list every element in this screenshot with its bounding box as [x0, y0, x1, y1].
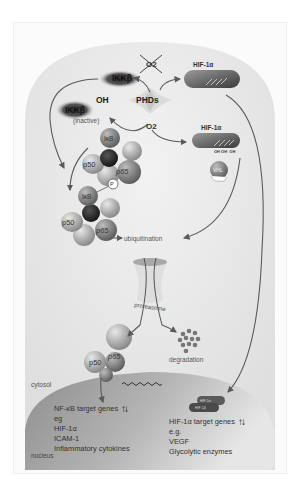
hif-gene-item: Glycolytic enzymes [169, 447, 244, 457]
ikk-inactive-note: (inactive) [73, 116, 99, 125]
nfkb-target-genes: NF-κB target genes↑↓ eg HIF-1α ICAM-1 In… [54, 404, 130, 454]
oh-groups-label: OH OH OH [214, 149, 235, 154]
up-down-arrows-icon: ↑↓ [238, 417, 244, 427]
hif-gene-item: e.g. [169, 427, 244, 437]
nfkb-genes-title: NF-κB target genes [54, 404, 118, 413]
hif-gene-item: VEGF [169, 437, 244, 447]
ikk-active-label: IKKβ [112, 74, 132, 83]
o2-crossed-label: O2 [146, 60, 157, 69]
hif-dimer-beta-label: HIF-1β [195, 404, 206, 413]
ikk-oh-label: OH [96, 96, 109, 105]
nfkb-gene-item: ICAM-1 [54, 434, 130, 444]
cytosol-label: cytosol [31, 380, 51, 389]
vhl-label: VHL [213, 166, 223, 175]
hif-hydroxylated-label: HIF-1α [201, 123, 221, 132]
p65-top-label: p65 [116, 167, 129, 176]
hif-target-genes: HIF-1α target genes↑↓ e.g. VEGF Glycolyt… [169, 417, 244, 457]
nfkb-gene-item: Inflammatory cytokines [54, 444, 130, 454]
o2-label: O2 [146, 122, 157, 131]
nfkb-gene-item: HIF-1α [54, 424, 130, 434]
p50-free-label: p50 [89, 358, 102, 367]
hif-hydroxylated-protein [192, 133, 240, 148]
ikk-inactive-label: IKKβ [65, 106, 85, 115]
hif-genes-title-row: HIF-1α target genes↑↓ [169, 417, 244, 427]
up-down-arrows-icon: ↑↓ [121, 404, 127, 414]
phospho-label: P [110, 180, 114, 189]
ikb-top-label: IκB [104, 134, 113, 143]
p50-bottom-label: p50 [62, 218, 75, 227]
degradation-label: degradation [169, 355, 203, 364]
hif-top-label: HIF-1α [193, 60, 213, 69]
ubiquitination-label: ubiquitination [124, 234, 162, 243]
nucleus-label: nucleus [31, 451, 53, 460]
p50-top-label: p50 [83, 160, 96, 169]
ikb-bottom-label: IκB [82, 192, 91, 201]
nfkb-genes-title-row: NF-κB target genes↑↓ [54, 404, 130, 414]
p65-free-label: p65 [108, 352, 121, 361]
phds-label: PHDs [136, 96, 159, 105]
hif-genes-title: HIF-1α target genes [169, 417, 235, 426]
nfkb-gene-item: eg [54, 414, 130, 424]
p65-bottom-label: p65 [96, 226, 109, 235]
